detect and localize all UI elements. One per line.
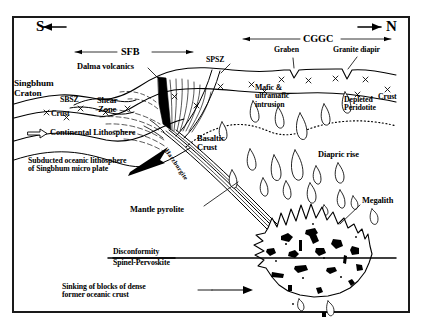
crust-left-label: Crust [51,110,70,118]
north-label: N [386,18,397,34]
continental-lithosphere-label: Continental Lithosphere [50,128,135,137]
subducted-slab-label: Subducted oceanic lithosphere of Singbhu… [28,157,126,174]
mafic-ultramafic-label: Mafic & ultramafic intrusion [255,84,289,109]
mantle-pyrolite-label: Mantle pyrolite [130,205,184,214]
south-label: S [36,18,44,34]
spinel-pervoskite-label: Spinel-Pervoskite [113,259,170,267]
shear-zone-label: Shear Zone [97,96,117,114]
sinking-blocks-label: Sinking of blocks of dense former oceani… [62,283,146,300]
dalma-volcanics-label: Dalma volcanics [77,62,134,71]
sbsz-label: SBSZ [60,96,79,104]
graben-label: Graben [274,46,299,54]
depleted-peridotite-label: Depleted Peridotite [344,96,376,113]
basaltic-crust-label: Basaltic Crust [197,134,225,152]
figure-canvas: S N CGGC SFB Singbhum Craton SBSZ SPSZ D… [0,0,422,331]
spsz-label: SPSZ [206,56,224,64]
sfb-label: SFB [121,46,139,57]
crust-right-label: Crust [378,93,397,101]
cggc-label: CGGC [303,33,333,44]
singbhum-craton-label: Singbhum Craton [14,79,54,99]
granite-diapir-label: Granite diapir [333,46,380,54]
disconformity-label: Disconformity [113,248,159,256]
diapric-rise-label: Diapric rise [318,150,359,159]
megalith-label: Megalith [362,196,393,205]
